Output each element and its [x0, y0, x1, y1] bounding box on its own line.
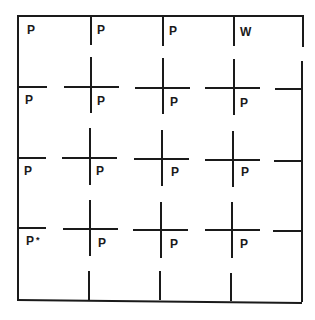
cell-label: W [240, 26, 251, 38]
hline-2-seg [274, 160, 302, 162]
cell-label: P [240, 238, 248, 250]
hline-3-seg [133, 229, 188, 231]
hline-1-seg [205, 87, 260, 89]
vline-2-seg [162, 16, 164, 46]
hline-3-seg [273, 230, 301, 232]
cell-label: P [97, 95, 105, 107]
cell-label: P [169, 25, 177, 37]
hline-2-seg [62, 157, 117, 159]
cell-label: P [98, 237, 106, 249]
border-right-lower [301, 61, 303, 302]
hline-2-seg [205, 159, 260, 161]
border-right-upper [302, 15, 304, 47]
vline-3-seg [233, 16, 235, 46]
hline-2-seg [134, 158, 189, 160]
cell-label: P [24, 165, 32, 177]
hline-3-seg [18, 227, 46, 229]
cell-label-starred: P* [26, 235, 40, 247]
cell-label: P [240, 97, 248, 109]
cell-label: P [27, 24, 35, 36]
cell-label: P [241, 166, 249, 178]
asterisk-mark: * [36, 235, 40, 245]
vline-1-seg [88, 271, 90, 300]
cell-label: P [25, 94, 33, 106]
vline-2-seg [159, 271, 161, 300]
hline-1-seg [275, 88, 302, 90]
grid-diagram: P P P W P P P P P P P P P* P P P [0, 0, 315, 320]
cell-label: P [96, 165, 104, 177]
border-top [18, 15, 303, 17]
cell-label: P [26, 234, 34, 248]
hline-1-seg [64, 86, 119, 88]
hline-1-seg [135, 87, 190, 89]
vline-2-seg [162, 58, 164, 114]
hline-3-seg [63, 228, 118, 230]
cell-label: P [97, 24, 105, 36]
cell-label: P [171, 166, 179, 178]
vline-3-seg [230, 273, 232, 301]
cell-label: P [170, 238, 178, 250]
hline-1-seg [18, 86, 47, 88]
hline-3-seg [205, 229, 260, 231]
cell-label: P [170, 96, 178, 108]
vline-1-seg [90, 57, 92, 113]
vline-1-seg [90, 16, 92, 45]
hline-2-seg [18, 157, 46, 159]
